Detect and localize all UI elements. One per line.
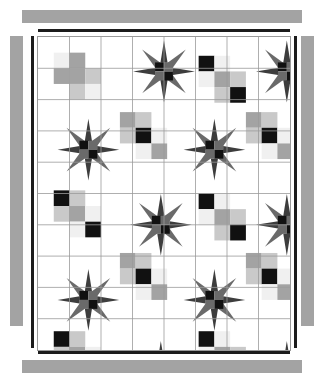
star-r3c6 [184, 119, 246, 181]
star-r1c4-center-patch [155, 62, 164, 71]
chain-a3 [199, 56, 246, 103]
chain-a8-patch [262, 269, 278, 285]
chain-a3-patch [230, 87, 246, 103]
chain-a9-patch [54, 347, 70, 350]
chain-a7-patch [199, 209, 215, 225]
star-r9c4 [130, 341, 192, 350]
chain-a11-patch [199, 347, 215, 350]
chain-a3-patch [214, 87, 230, 103]
star-r7c6-center-patch [214, 300, 223, 309]
quilt-body [37, 36, 291, 351]
star-r7c6-point [184, 296, 206, 303]
chain-a2-patch [136, 143, 152, 159]
chain-a6-patch [151, 269, 167, 285]
chain-a7-patch [199, 194, 215, 210]
chain-a8-patch [262, 284, 278, 300]
star-r7c2-center-patch [79, 291, 88, 300]
chain-a6-patch [120, 269, 136, 285]
chain-a5-patch [54, 206, 70, 222]
star-r7c6-center-patch [214, 291, 223, 300]
chain-a8-patch [277, 269, 290, 285]
star-r3c6-center-patch [205, 150, 214, 159]
star-r5c4-center-patch [152, 216, 161, 225]
chain-a2-patch [120, 128, 136, 144]
left-border-strip [10, 36, 23, 326]
chain-a6 [120, 253, 167, 300]
chain-a5-patch [85, 206, 101, 222]
star-r5c8-center-patch [278, 216, 287, 225]
star-r5c8-center-patch [287, 216, 290, 225]
chain-a1-patch [70, 53, 86, 69]
chain-a9-patch [85, 347, 101, 350]
chain-a9-patch [54, 331, 70, 347]
star-r3c2-center-patch [88, 150, 97, 159]
chain-a8-patch [262, 253, 278, 269]
star-r5c8-point [283, 234, 290, 256]
chain-a2-patch [151, 143, 167, 159]
star-r7c2-point [85, 309, 92, 331]
chain-a6-patch [136, 269, 152, 285]
star-r1c4-center-patch [164, 62, 173, 71]
star-r5c8-center-patch [287, 225, 290, 234]
star-r7c6 [184, 269, 246, 331]
chain-a1-patch [85, 68, 101, 84]
star-r1c8 [256, 40, 290, 102]
chain-a2-patch [120, 112, 136, 128]
star-r5c4-point [157, 234, 164, 256]
chain-a5-patch [70, 222, 86, 238]
chain-a1-patch [54, 53, 70, 69]
chain-a6-patch [136, 253, 152, 269]
star-r7c6-center-patch [205, 300, 214, 309]
star-r9c8-point [283, 341, 290, 350]
star-r7c2 [58, 269, 120, 331]
right-border-strip [301, 36, 314, 326]
chain-a11-patch [214, 331, 230, 347]
chain-a4-patch [246, 128, 262, 144]
chain-a6-patch [120, 253, 136, 269]
chain-a3-patch [199, 56, 215, 72]
star-r1c8-point [283, 40, 290, 62]
chain-a2 [120, 112, 167, 159]
chain-a5-patch [70, 190, 86, 206]
chain-a4-patch [277, 128, 290, 144]
star-r7c6-point [211, 309, 218, 331]
star-r7c6-point [211, 269, 218, 291]
star-r5c8-center-patch [278, 225, 287, 234]
chain-a5-patch [54, 190, 70, 206]
chain-a4-patch [277, 143, 290, 159]
star-r1c8-center-patch [287, 62, 290, 71]
chain-a6-patch [136, 284, 152, 300]
chain-a1-patch [70, 84, 86, 100]
star-r5c4-center-patch [161, 225, 170, 234]
right-binding-line [294, 36, 297, 348]
chain-a2-patch [151, 128, 167, 144]
star-r1c4-point [173, 68, 195, 75]
chain-a1 [54, 53, 101, 100]
star-r9c8 [256, 341, 290, 350]
chain-a9 [54, 331, 101, 350]
quilt-pattern-figure [0, 0, 324, 383]
chain-a3-patch [214, 71, 230, 87]
star-r3c2-point [85, 158, 92, 180]
chain-a8-patch [277, 284, 290, 300]
quilt-canvas [38, 37, 290, 350]
star-r5c4-point [157, 194, 164, 216]
chain-a7 [199, 194, 246, 241]
chain-a7-patch [214, 225, 230, 241]
star-r5c4-center-patch [152, 225, 161, 234]
star-r5c8-point [283, 194, 290, 216]
star-r9c4-point [157, 341, 164, 350]
chain-a4 [246, 112, 290, 159]
chain-a11-patch [230, 347, 246, 350]
star-r3c2 [58, 119, 120, 181]
star-r3c2-center-patch [88, 141, 97, 150]
star-r3c2-point [85, 119, 92, 141]
chain-a7-patch [214, 194, 230, 210]
chain-a3-patch [214, 56, 230, 72]
star-r7c2-center-patch [88, 291, 97, 300]
chain-a1-patch [85, 84, 101, 100]
star-r7c2-point [58, 296, 80, 303]
chain-a5-patch [70, 206, 86, 222]
chain-a11-patch [214, 347, 230, 350]
star-r3c6-center-patch [214, 150, 223, 159]
